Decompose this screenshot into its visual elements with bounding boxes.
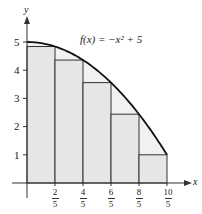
y-tick-label-5: 5	[14, 37, 20, 48]
x-tick-label-6-5: 65	[104, 188, 118, 209]
y-tick-label-4: 4	[14, 65, 20, 76]
riemann-rectangles	[27, 47, 167, 183]
x-tick-denominator: 5	[137, 199, 142, 209]
x-tick-numerator: 4	[81, 187, 86, 197]
x-tick-label-2-5: 25	[48, 188, 62, 209]
x-tick-numerator: 10	[164, 187, 173, 197]
riemann-rectangle	[83, 83, 111, 183]
y-axis-label: y	[24, 5, 28, 15]
x-tick-numerator: 8	[137, 187, 142, 197]
x-tick-denominator: 5	[81, 199, 86, 209]
x-tick-numerator: 6	[109, 187, 114, 197]
y-tick-label-3: 3	[14, 93, 20, 104]
x-tick-denominator: 5	[109, 199, 114, 209]
riemann-rectangle	[111, 114, 139, 183]
x-tick-label-10-5: 105	[161, 188, 175, 209]
y-axis-arrow-icon	[24, 16, 30, 24]
x-tick-denominator: 5	[166, 199, 171, 209]
x-tick-numerator: 2	[53, 187, 58, 197]
x-axis-arrow-icon	[184, 180, 192, 186]
x-axis-label: x	[193, 177, 197, 187]
y-tick-label-1: 1	[14, 150, 20, 161]
x-tick-label-8-5: 85	[132, 188, 146, 209]
riemann-rectangle	[27, 47, 55, 183]
riemann-rectangle	[55, 60, 83, 183]
x-tick-label-4-5: 45	[76, 188, 90, 209]
riemann-rectangle	[139, 155, 167, 183]
x-tick-denominator: 5	[53, 199, 58, 209]
y-tick-label-2: 2	[14, 121, 20, 132]
function-label: f(x) = −x² + 5	[80, 34, 142, 45]
